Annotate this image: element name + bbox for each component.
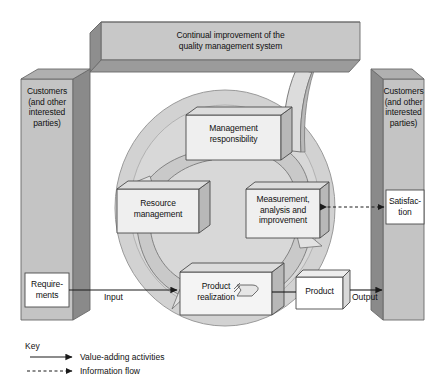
resource-management-label: Resource management xyxy=(117,198,199,219)
satisfaction-label: Satisfac- tion xyxy=(386,196,424,217)
output-label: Output xyxy=(352,292,378,302)
right-pillar-label: Customers (and other interested parties) xyxy=(383,86,424,128)
product-label: Product xyxy=(296,286,343,297)
legend-title: Key xyxy=(25,341,40,351)
requirements-label: Require- ments xyxy=(25,279,69,300)
legend-arrows xyxy=(27,357,72,371)
diagram-canvas: Continual improvement of the quality man… xyxy=(0,0,439,386)
management-responsibility-label: Management responsibility xyxy=(186,123,281,144)
legend-item-value-adding-label: Value-adding activities xyxy=(80,352,164,362)
legend-item-information-flow-label: Information flow xyxy=(80,366,140,376)
input-label: Input xyxy=(104,292,123,302)
diagram-graphics xyxy=(0,0,439,386)
banner-label: Continual improvement of the quality man… xyxy=(101,30,360,51)
measurement-label: Measurement, analysis and improvement xyxy=(246,194,320,226)
product-realization-label: Product realization xyxy=(178,281,254,302)
left-pillar-label: Customers (and other interested parties) xyxy=(21,86,73,128)
